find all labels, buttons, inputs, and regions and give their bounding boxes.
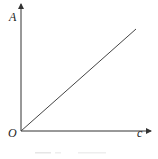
data-line bbox=[21, 29, 136, 131]
caption-placeholder bbox=[78, 152, 106, 154]
caption-placeholder bbox=[55, 152, 61, 154]
chart: A O c bbox=[0, 0, 158, 159]
y-axis-label: A bbox=[8, 10, 17, 24]
x-axis-label: c bbox=[137, 126, 143, 140]
origin-label: O bbox=[8, 126, 17, 140]
caption-placeholder bbox=[35, 152, 51, 154]
